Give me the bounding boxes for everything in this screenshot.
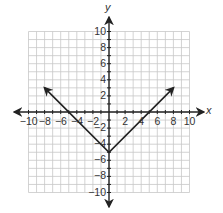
x-tick-label: 4: [138, 116, 144, 127]
x-tick-label: 2: [122, 116, 128, 127]
x-tick-label: 6: [154, 116, 160, 127]
coordinate-plane: [0, 0, 223, 213]
y-tick-label: 6: [100, 58, 106, 69]
y-tick-label: −2: [94, 122, 106, 133]
y-tick-label: −8: [94, 170, 106, 181]
x-tick-label: −4: [71, 116, 83, 127]
y-axis-label: y: [105, 2, 111, 13]
y-tick-label: 4: [100, 74, 106, 85]
x-axis-label: x: [206, 105, 212, 116]
y-tick-label: −10: [88, 187, 106, 198]
y-tick-label: −6: [94, 154, 106, 165]
y-tick-label: 8: [100, 42, 106, 53]
y-tick-label: 2: [100, 90, 106, 101]
x-tick-label: 10: [184, 116, 196, 127]
y-tick-label: −4: [94, 138, 106, 149]
x-tick-label: 8: [171, 116, 177, 127]
x-tick-label: −8: [39, 116, 51, 127]
y-tick-label: 10: [94, 26, 106, 37]
x-tick-label: −10: [20, 116, 38, 127]
x-tick-label: −6: [55, 116, 67, 127]
axes: [15, 18, 204, 207]
